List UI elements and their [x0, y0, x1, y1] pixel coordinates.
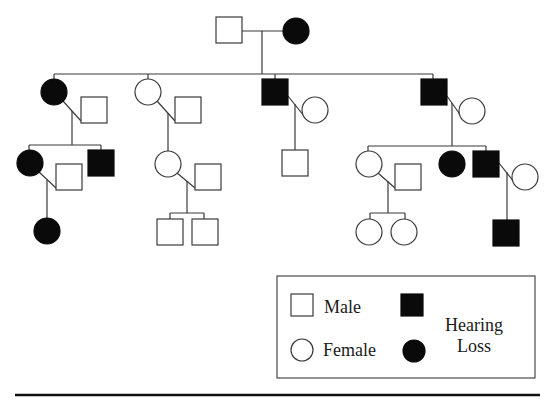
affected-female-circle-icon — [41, 79, 67, 105]
legend-male-square-icon — [291, 294, 313, 316]
male-square-icon — [175, 97, 201, 123]
legend: Male Female Hearing Loss — [277, 276, 535, 378]
male-square-icon — [216, 17, 242, 43]
affected-male-square-icon — [262, 79, 288, 105]
legend-affected-female-circle-icon — [403, 340, 425, 362]
pedigree-diagram: Male Female Hearing Loss — [0, 0, 552, 403]
affected-male-square-icon — [88, 150, 114, 176]
male-square-icon — [157, 219, 183, 245]
marriage-line — [288, 96, 304, 116]
female-circle-icon — [391, 219, 417, 245]
female-circle-icon — [356, 219, 382, 245]
male-square-icon — [56, 164, 82, 190]
affected-male-square-icon — [493, 220, 519, 246]
pedigree-individuals — [17, 17, 538, 246]
female-circle-icon — [135, 79, 161, 105]
female-circle-icon — [302, 97, 328, 123]
affected-female-circle-icon — [439, 151, 465, 177]
male-square-icon — [81, 97, 107, 123]
marriage-line — [378, 173, 395, 188]
female-circle-icon — [356, 151, 382, 177]
legend-hearing-loss-label-line1: Hearing — [445, 315, 503, 335]
affected-female-circle-icon — [34, 218, 60, 244]
female-circle-icon — [512, 164, 538, 190]
legend-male-label: Male — [324, 297, 361, 317]
affected-male-square-icon — [473, 151, 499, 177]
male-square-icon — [195, 164, 221, 190]
marriage-line — [177, 173, 195, 188]
legend-affected-male-square-icon — [401, 294, 423, 316]
pedigree-lines — [29, 31, 514, 220]
male-square-icon — [192, 219, 218, 245]
male-square-icon — [282, 150, 308, 176]
legend-hearing-loss-label-line2: Loss — [457, 336, 491, 356]
legend-female-circle-icon — [291, 339, 313, 361]
affected-female-circle-icon — [17, 150, 43, 176]
female-circle-icon — [459, 98, 485, 124]
affected-male-square-icon — [421, 79, 447, 105]
legend-female-label: Female — [323, 340, 376, 360]
marriage-line — [157, 101, 175, 121]
male-square-icon — [395, 164, 421, 190]
female-circle-icon — [155, 151, 181, 177]
affected-female-circle-icon — [283, 18, 309, 44]
